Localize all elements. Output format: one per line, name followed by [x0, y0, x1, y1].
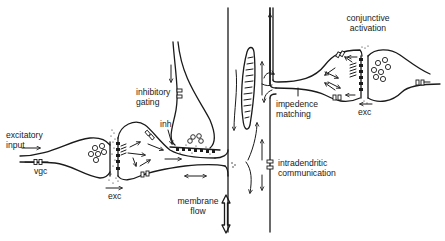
- inh-label: inh: [160, 119, 171, 129]
- vgc-label: vgc: [34, 166, 47, 176]
- inhibitory-gating-label: inhibitory gating: [136, 87, 170, 107]
- impedence-line1: impedence: [276, 99, 318, 109]
- membrane-flow-label: membrane flow: [171, 196, 225, 216]
- intradendritic-line1: intradendritic: [278, 158, 336, 168]
- excitatory-input-line2: input: [6, 140, 43, 150]
- intradendritic-line2: communication: [278, 168, 336, 178]
- conjunctive-line2: activation: [334, 23, 402, 33]
- intradendritic-communication-label: intradendritic communication: [278, 158, 336, 178]
- exc-right-label: exc: [358, 107, 371, 117]
- exc-left-label: exc: [108, 191, 121, 201]
- membrane-flow-line1: membrane: [171, 196, 225, 206]
- inhibitory-terminal: [168, 42, 220, 155]
- conjunctive-line1: conjunctive: [334, 13, 402, 23]
- excitatory-input-line1: excitatory: [6, 130, 43, 140]
- inhibitory-gating-line2: gating: [136, 97, 170, 107]
- conjunctive-activation-label: conjunctive activation: [334, 13, 402, 33]
- inhibitory-gating-line1: inhibitory: [136, 87, 170, 97]
- excitatory-input-label: excitatory input: [6, 130, 43, 150]
- impedence-matching-label: impedence matching: [276, 99, 318, 119]
- impedence-line2: matching: [276, 109, 318, 119]
- membrane-flow-line2: flow: [171, 206, 225, 216]
- synapse-diagram: excitatory input vgc exc inhibitory gati…: [0, 0, 445, 241]
